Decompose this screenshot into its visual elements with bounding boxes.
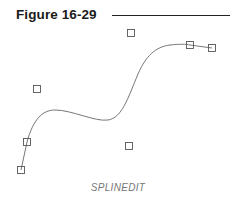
control-point-grip-1[interactable] (24, 139, 31, 146)
control-point-grip-3[interactable] (126, 143, 133, 150)
control-point-grip-4[interactable] (128, 30, 135, 37)
control-point-grip-2[interactable] (34, 86, 41, 93)
control-point-grip-6[interactable] (209, 45, 216, 52)
control-point-grip-0[interactable] (18, 167, 25, 174)
control-point-grip-5[interactable] (187, 42, 194, 49)
figure-caption: SPLINEDIT (0, 182, 236, 193)
spline-diagram (0, 0, 236, 202)
spline-curve (21, 44, 212, 170)
control-point-grips[interactable] (18, 30, 216, 174)
